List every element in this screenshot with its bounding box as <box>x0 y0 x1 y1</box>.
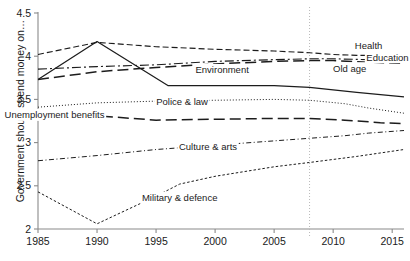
series-annotation: Police & law <box>156 96 208 107</box>
x-tick-label: 1995 <box>144 235 168 247</box>
series-annotation: Old age <box>333 63 366 74</box>
series-annotation: Unemployment benefits <box>5 109 105 120</box>
x-tick-label: 2015 <box>381 235 405 247</box>
series-annotation: Culture & arts <box>179 141 237 152</box>
series-line <box>38 150 404 224</box>
series-annotation: Education <box>366 52 408 63</box>
x-tick-label: 2000 <box>203 235 227 247</box>
y-tick-label: 4.5 <box>16 7 31 19</box>
x-tick-label: 2010 <box>321 235 345 247</box>
y-tick-label: 3.5 <box>16 93 31 105</box>
series-annotation: Environment <box>196 64 250 75</box>
line-chart-svg: 22.533.544.5 198519901995200020052010201… <box>0 0 410 261</box>
x-tick-label: 2005 <box>262 235 286 247</box>
y-tick-label: 3 <box>25 136 31 148</box>
x-tick-label: 1990 <box>85 235 109 247</box>
chart-container: Government should spend money on… 22.533… <box>0 0 410 261</box>
y-tick-label: 2 <box>25 223 31 235</box>
x-tick-label: 1985 <box>26 235 50 247</box>
series-annotations: HealthEducationOld ageEnvironmentPolice … <box>3 40 410 204</box>
y-tick-label: 2.5 <box>16 179 31 191</box>
x-axis-ticks: 1985199019952000200520102015 <box>26 229 404 247</box>
y-tick-label: 4 <box>25 50 31 62</box>
series-annotation: Health <box>355 40 382 51</box>
series-annotation: Military & defence <box>142 192 218 203</box>
